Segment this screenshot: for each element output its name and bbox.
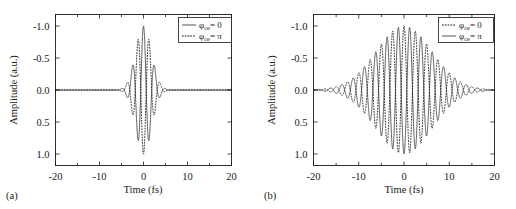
legend-entry-1: φce= π — [199, 31, 222, 42]
panel-a-curves — [56, 26, 232, 154]
x-tick-label: 10 — [182, 171, 193, 182]
legend-entry-0: φce= 0 — [199, 20, 222, 31]
y-tick-label: 0.0 — [36, 85, 49, 96]
y-tick-label: 0.5 — [36, 117, 49, 128]
figure-container: -20-10010201.00.50.0-0.5-1.0 Time (fs) A… — [0, 0, 516, 209]
legend-a: φce= 0 φce= π — [179, 18, 232, 43]
curve-phi-ce-0 — [314, 26, 495, 153]
y-tick-label: -0.5 — [291, 53, 308, 64]
x-tick-label: 20 — [226, 171, 237, 182]
y-tick-label: -1.0 — [291, 21, 308, 32]
x-tick-label: -20 — [49, 171, 63, 182]
x-tick-label: -20 — [307, 171, 321, 182]
x-axis-title: Time (fs) — [385, 184, 424, 196]
curve-phi-ce-0 — [56, 26, 232, 141]
legend-entry-0: φce= 0 — [459, 20, 482, 31]
panel-tag-b: (b) — [264, 190, 277, 202]
curve-phi-ce-pi — [56, 39, 232, 154]
x-tick-label: 0 — [401, 171, 406, 182]
y-tick-label: 0.5 — [294, 117, 307, 128]
y-tick-label: 0.0 — [294, 85, 307, 96]
legend-entry-1: φce= π — [459, 31, 482, 42]
x-tick-label: 10 — [444, 171, 455, 182]
panel-tag-a: (a) — [6, 190, 18, 202]
y-tick-label: 1.0 — [36, 149, 49, 160]
x-axis-title: Time (fs) — [124, 184, 163, 196]
panel-a-plot: -20-10010201.00.50.0-0.5-1.0 Time (fs) A… — [0, 0, 258, 209]
panel-b: -20-10010201.00.50.0-0.5-1.0 Time (fs) A… — [258, 0, 516, 209]
legend-b: φce= 0 φce= π — [439, 18, 494, 43]
y-tick-label: 1.0 — [294, 149, 307, 160]
x-tick-label: -10 — [352, 171, 366, 182]
y-axis-title: Amplitude (a.u.) — [266, 55, 278, 125]
y-axis-title: Amplitude (a.u.) — [8, 55, 20, 125]
y-tick-label: -0.5 — [33, 53, 50, 64]
x-tick-label: 0 — [141, 171, 146, 182]
panel-b-curves — [314, 26, 495, 154]
y-tick-label: -1.0 — [33, 21, 50, 32]
panel-b-plot: -20-10010201.00.50.0-0.5-1.0 Time (fs) A… — [258, 0, 516, 209]
x-tick-label: -10 — [93, 171, 107, 182]
curve-phi-ce-pi — [314, 27, 495, 154]
x-tick-label: 20 — [489, 171, 500, 182]
panel-a: -20-10010201.00.50.0-0.5-1.0 Time (fs) A… — [0, 0, 258, 209]
